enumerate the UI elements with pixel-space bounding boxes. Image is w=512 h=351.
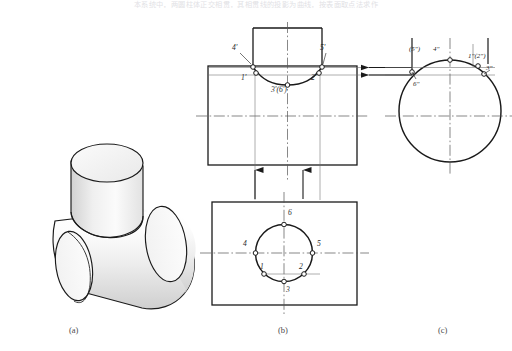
label-side-4dq: 4" — [433, 45, 439, 53]
label-top-5: 5 — [317, 239, 321, 248]
front-view-rect — [208, 66, 357, 165]
label-side-5dq: (5") — [409, 45, 420, 53]
label-top-4: 4 — [243, 239, 247, 248]
branch-cylinder-top-ellipse — [71, 144, 143, 182]
view-b-top — [200, 192, 369, 315]
top-point-1 — [262, 272, 267, 277]
label-top-6: 6 — [288, 208, 292, 217]
side-point-1-2 — [476, 64, 481, 69]
figure-root: 本系统中，两圆柱体正交相贯，其相贯线的投影为曲线，按表面取点法求作 — [0, 0, 512, 351]
view-a-pictorial — [51, 144, 196, 309]
label-front-1p: 1' — [241, 73, 246, 82]
top-point-4 — [253, 251, 258, 256]
label-front-36p: 3'(6') — [271, 85, 287, 94]
front-point-2p — [317, 71, 322, 76]
label-top-1: 1 — [260, 262, 264, 271]
top-point-2 — [302, 272, 307, 277]
front-point-1p — [254, 71, 259, 76]
caption-a: (a) — [69, 325, 78, 335]
top-point-5 — [310, 251, 315, 256]
front-point-5p — [320, 65, 325, 70]
caption-c: (c) — [438, 325, 447, 335]
label-front-4p: 4' — [232, 43, 237, 52]
view-b-front — [196, 22, 412, 200]
view-c-side — [385, 38, 512, 175]
front-point-4p — [251, 65, 256, 70]
label-front-5p: 5' — [320, 43, 325, 52]
label-top-2: 2 — [299, 262, 303, 271]
top-view-rect — [212, 202, 357, 305]
caption-b: (b) — [278, 325, 288, 335]
front-leader-4p — [240, 53, 251, 64]
front-leader-5p — [323, 53, 326, 64]
label-side-3dq: 3" — [486, 64, 492, 72]
top-point-6 — [282, 222, 287, 227]
label-side-6dq: 6" — [413, 80, 419, 88]
side-point-4-5 — [448, 58, 453, 63]
label-top-3: 3 — [286, 285, 290, 294]
label-side-12dq: 1"(2") — [468, 52, 486, 60]
top-point-3 — [282, 279, 287, 284]
label-front-2p: 2' — [311, 73, 316, 82]
